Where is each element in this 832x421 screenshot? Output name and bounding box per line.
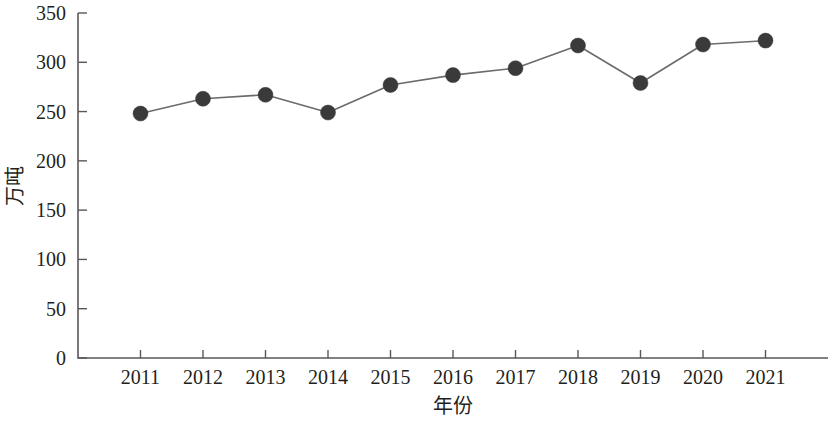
line-chart: 050100150200250300350 201120122013201420…	[0, 0, 832, 421]
data-point-marker	[133, 106, 148, 121]
data-point-marker	[508, 61, 523, 76]
x-axis-tick-label: 2015	[371, 366, 411, 388]
data-point-marker	[571, 38, 586, 53]
x-axis-tick-label: 2016	[433, 366, 473, 388]
x-axis-tick-label: 2019	[621, 366, 661, 388]
x-axis-tick-label: 2014	[308, 366, 348, 388]
y-axis-tick-label: 0	[56, 347, 66, 369]
x-axis-tick-label: 2012	[183, 366, 223, 388]
x-axis-title: 年份	[433, 395, 473, 417]
data-point-marker	[321, 105, 336, 120]
chart-canvas: 050100150200250300350 201120122013201420…	[0, 0, 832, 421]
x-axis-tick-label: 2018	[558, 366, 598, 388]
x-axis-tick-label: 2017	[496, 366, 536, 388]
axis-frame	[78, 13, 828, 358]
data-point-marker	[633, 75, 648, 90]
series-marker-group	[133, 33, 773, 121]
data-point-marker	[196, 91, 211, 106]
y-axis-tick-label: 100	[36, 248, 66, 270]
x-axis-tick-mark-group	[141, 350, 766, 358]
x-axis-tick-label: 2021	[746, 366, 786, 388]
y-axis-tick-label: 350	[36, 2, 66, 24]
y-axis-tick-label: 250	[36, 101, 66, 123]
y-axis-tick-mark-group	[78, 13, 87, 358]
y-axis-tick-label: 300	[36, 51, 66, 73]
y-axis-tick-label: 200	[36, 150, 66, 172]
data-point-marker	[446, 68, 461, 83]
x-axis-tick-label-group: 2011201220132014201520162017201820192020…	[121, 366, 786, 388]
data-point-marker	[258, 87, 273, 102]
y-axis-tick-label: 150	[36, 199, 66, 221]
x-axis-tick-label: 2013	[246, 366, 286, 388]
x-axis-tick-label: 2011	[121, 366, 160, 388]
y-axis-title: 万吨	[4, 166, 26, 206]
y-axis-tick-label: 50	[46, 298, 66, 320]
data-point-marker	[758, 33, 773, 48]
x-axis-tick-label: 2020	[683, 366, 723, 388]
data-point-marker	[383, 77, 398, 92]
data-point-marker	[696, 37, 711, 52]
y-axis-tick-label-group: 050100150200250300350	[36, 2, 66, 369]
